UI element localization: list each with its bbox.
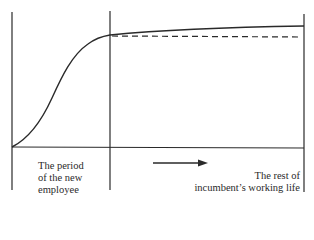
new-employee-period-label: The period of the new employee xyxy=(38,160,108,196)
label-line: employee xyxy=(38,184,108,196)
incumbent-period-label: The rest of incumbent’s working life xyxy=(140,170,300,194)
label-line: of the new xyxy=(38,172,108,184)
label-line: incumbent’s working life xyxy=(140,182,300,194)
plateau-dashed-line xyxy=(112,36,302,37)
time-arrow-head xyxy=(198,160,208,167)
label-line: The period xyxy=(38,160,108,172)
label-line: The rest of xyxy=(140,170,300,182)
baseline xyxy=(12,147,304,148)
learning-curve xyxy=(12,26,304,147)
